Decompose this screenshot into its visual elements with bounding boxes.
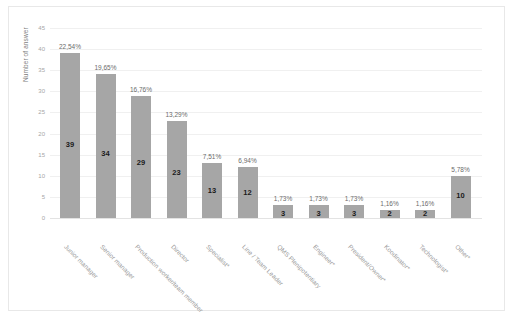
- bar-value-label: 10: [445, 191, 477, 200]
- bar-value-label: 2: [374, 209, 406, 218]
- bar-value-label: 34: [90, 149, 122, 158]
- x-axis-category-label: Koodinator*: [383, 243, 412, 272]
- bar-percent-label: 7,51%: [192, 153, 232, 160]
- bar-slot: 126,94%: [232, 28, 264, 218]
- x-axis-category-label: Other*: [454, 243, 472, 261]
- bar-value-label: 23: [161, 168, 193, 177]
- x-axis-category-label: Technologist*: [418, 243, 450, 275]
- bar-value-label: 12: [232, 188, 264, 197]
- bar-percent-label: 5,78%: [441, 166, 481, 173]
- bar-slot: 21,16%: [409, 28, 441, 218]
- bar-slot: 2916,76%: [125, 28, 157, 218]
- bar-slot: 3419,65%: [90, 28, 122, 218]
- bar-slot: 21,16%: [374, 28, 406, 218]
- bar-slot: 31,73%: [267, 28, 299, 218]
- x-axis-category-label: Senior manager: [99, 243, 136, 280]
- bar-percent-label: 1,73%: [334, 195, 374, 202]
- bar-slot: 3922,54%: [54, 28, 86, 218]
- y-axis-title: Number of answer: [22, 27, 29, 82]
- y-axis-tick-label: 5: [42, 194, 45, 200]
- y-axis-tick-label: 0: [42, 215, 45, 221]
- x-axis-category-label: Engineer*: [312, 243, 337, 268]
- bar-percent-label: 1,73%: [263, 195, 303, 202]
- bar-percent-label: 1,73%: [299, 195, 339, 202]
- bar-value-label: 3: [338, 209, 370, 218]
- bar-percent-label: 13,29%: [157, 111, 197, 118]
- bar-value-label: 29: [125, 158, 157, 167]
- bar-percent-label: 22,54%: [50, 43, 90, 50]
- gridline: [50, 218, 482, 219]
- bar-slot: 31,73%: [303, 28, 335, 218]
- y-axis-tick-label: 35: [38, 67, 45, 73]
- bar-value-label: 2: [409, 209, 441, 218]
- bar-value-label: 3: [267, 209, 299, 218]
- x-axis-category-label: President/Owner*: [347, 243, 387, 283]
- bar-slot: 137,51%: [196, 28, 228, 218]
- y-axis-tick-label: 20: [38, 131, 45, 137]
- bar-value-label: 13: [196, 186, 228, 195]
- bar[interactable]: [60, 53, 80, 218]
- bar-slot: 105,78%: [445, 28, 477, 218]
- bar-slot: 31,73%: [338, 28, 370, 218]
- bar-percent-label: 19,65%: [86, 64, 126, 71]
- bar-percent-label: 1,16%: [370, 200, 410, 207]
- x-axis-category-label: Production worker/team member: [134, 243, 205, 314]
- y-axis-tick-label: 15: [38, 152, 45, 158]
- bar[interactable]: [96, 74, 116, 218]
- y-axis-tick-label: 40: [38, 46, 45, 52]
- x-axis-category-label: Junior manager: [63, 243, 99, 279]
- y-axis-tick-label: 30: [38, 88, 45, 94]
- bar-slot: 2313,29%: [161, 28, 193, 218]
- y-axis-tick-label: 25: [38, 109, 45, 115]
- chart-container: Number of answer 0510152025303540453922,…: [8, 6, 505, 311]
- x-axis-category-label: Director: [170, 243, 191, 264]
- bar-percent-label: 1,16%: [405, 200, 445, 207]
- bar-percent-label: 6,94%: [228, 157, 268, 164]
- bar-value-label: 39: [54, 140, 86, 149]
- bar-value-label: 3: [303, 209, 335, 218]
- plot-area: 0510152025303540453922,54%Junior manager…: [50, 28, 509, 218]
- x-axis-category-label: Specialist*: [205, 243, 231, 269]
- bar-percent-label: 16,76%: [121, 86, 161, 93]
- y-axis-tick-label: 10: [38, 173, 45, 179]
- y-axis-tick-label: 45: [38, 25, 45, 31]
